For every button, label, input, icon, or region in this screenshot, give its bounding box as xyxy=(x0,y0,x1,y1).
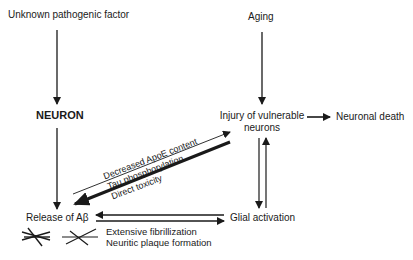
node-neuronal-death: Neuronal death xyxy=(336,111,404,123)
node-release-of-abeta: Release of Aβ xyxy=(26,212,88,224)
injury-line-1: Injury of vulnerable xyxy=(218,110,306,122)
node-injury-of-vulnerable-neurons: Injury of vulnerable neurons xyxy=(218,110,306,134)
node-neuron: NEURON xyxy=(36,109,84,121)
label-neuritic-plaque-formation: Neuritic plaque formation xyxy=(106,237,212,249)
fibril-cross-symbol-1 xyxy=(22,228,50,246)
injury-line-2: neurons xyxy=(218,122,306,134)
node-aging: Aging xyxy=(248,11,274,23)
node-glial-activation: Glial activation xyxy=(230,212,295,224)
node-unknown-pathogenic-factor: Unknown pathogenic factor xyxy=(8,9,129,21)
fibril-cross-symbol-2 xyxy=(62,229,98,245)
